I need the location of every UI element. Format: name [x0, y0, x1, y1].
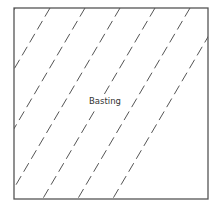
basting-diagram: Basting — [0, 0, 220, 211]
basting-label: Basting — [89, 96, 121, 106]
basting-stitch-line — [0, 8, 85, 199]
basting-stitch-line — [113, 8, 220, 199]
basting-stitch-line — [0, 8, 15, 199]
